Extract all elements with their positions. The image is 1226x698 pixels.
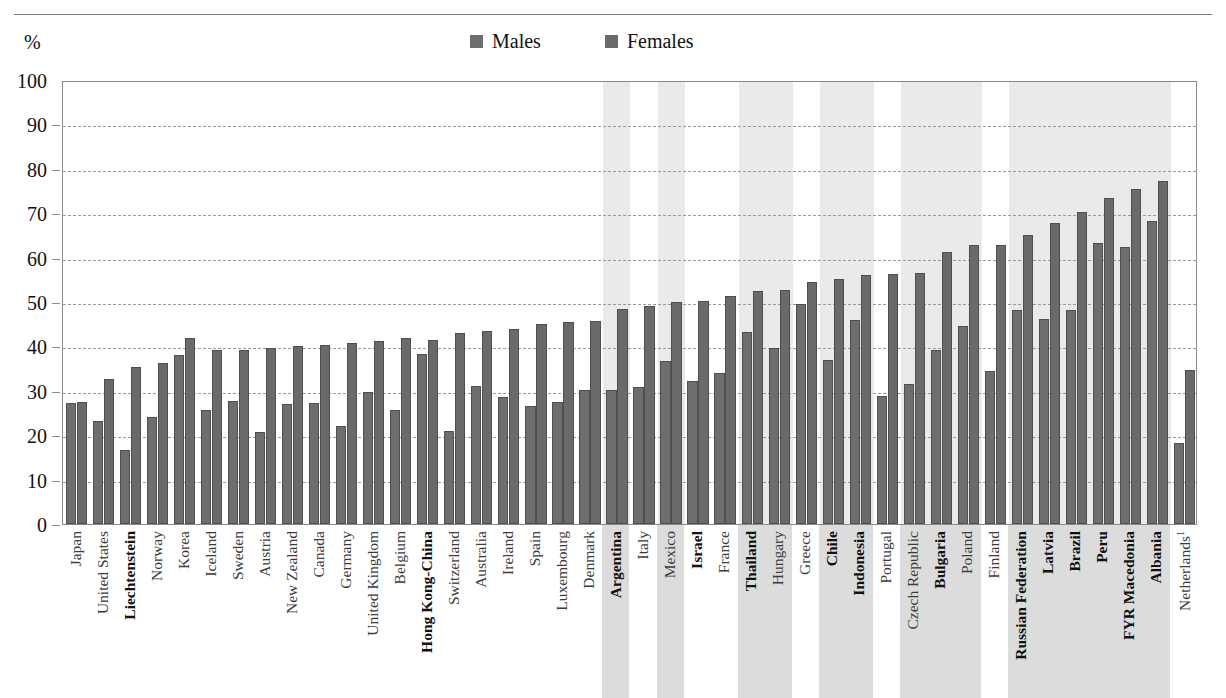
bar-males-portugal [877, 396, 887, 524]
x-axis-label-cell: Iceland [197, 525, 224, 698]
bar-females-brazil [1077, 212, 1087, 524]
bar-males-chile [823, 360, 833, 524]
bar-females-mexico [671, 302, 681, 524]
x-axis-label-cell: Latvia [1035, 525, 1062, 698]
bar-females-united-states [104, 379, 114, 524]
x-axis-tick-label: Finland [987, 531, 1003, 578]
x-axis-tick-label: Thailand [743, 531, 759, 591]
bar-females-united-kingdom [374, 341, 384, 524]
x-axis-tick-label: FYR Macedonia [1122, 531, 1138, 640]
figure-root: % MalesFemales 1009080706050403020100 Ja… [0, 0, 1226, 698]
bar-males-russian-federation [1012, 310, 1022, 524]
y-axis-tick-mark [52, 525, 60, 526]
bar-females-greece [807, 282, 817, 524]
bar-females-czech-republic [915, 273, 925, 524]
plot-area [62, 81, 1197, 525]
x-axis-tick-label: New Zealand [284, 531, 300, 614]
legend-label: Males [492, 31, 541, 51]
x-axis-label-cell: Brazil [1062, 525, 1089, 698]
x-axis-label-cell: Indonesia [846, 525, 873, 698]
x-axis-label-cell: Australia [467, 525, 494, 698]
bar-females-france [725, 296, 735, 524]
bar-females-austria [266, 348, 276, 524]
x-axis-label-cell: New Zealand [278, 525, 305, 698]
y-axis-tick-label: 50 [27, 293, 47, 313]
chart-legend: MalesFemales [470, 28, 694, 54]
x-axis-label-cell: Mexico [657, 525, 684, 698]
x-axis-tick-label: Norway [149, 531, 165, 581]
bar-males-iceland [201, 410, 211, 524]
bar-females-germany [347, 343, 357, 524]
x-axis-tick-label: Germany [338, 531, 354, 589]
y-axis-tick-mark [52, 392, 60, 393]
x-axis-tick-label: Luxembourg [554, 531, 570, 611]
x-axis-tick-label: Belgium [392, 531, 408, 584]
bar-males-fyr-macedonia [1120, 247, 1130, 524]
bar-males-luxembourg [552, 402, 562, 524]
x-axis-tick-label: Korea [176, 531, 192, 569]
y-axis-tick-label: 60 [27, 249, 47, 269]
x-axis-label-cell: United Kingdom [359, 525, 386, 698]
x-axis-label-cell: France [711, 525, 738, 698]
bar-males-france [714, 373, 724, 524]
x-axis-tick-label: Israel [689, 531, 705, 569]
bar-males-brazil [1066, 310, 1076, 524]
bar-females-australia [482, 331, 492, 524]
y-axis-tick-mark [52, 125, 60, 126]
y-axis-tick-mark [52, 303, 60, 304]
y-axis-tick-mark [52, 481, 60, 482]
y-axis-tick-label: 100 [17, 71, 47, 91]
bar-females-new-zealand [293, 346, 303, 524]
x-axis-tick-label: Australia [473, 531, 489, 588]
x-axis-tick-label: Austria [257, 531, 273, 577]
bar-males-netherlands [1174, 443, 1184, 524]
bar-males-germany [336, 426, 346, 524]
x-axis-label-cell: Spain [521, 525, 548, 698]
bar-females-latvia [1050, 223, 1060, 524]
y-axis-unit-label: % [24, 31, 41, 54]
x-axis-label-cell: Liechtenstein [116, 525, 143, 698]
bar-females-albania [1158, 181, 1168, 524]
x-axis-label-cell: United States [89, 525, 116, 698]
x-axis-label-cell: Belgium [386, 525, 413, 698]
x-axis-label-cell: Thailand [738, 525, 765, 698]
bar-females-russian-federation [1023, 235, 1033, 524]
x-axis-label-cell: Peru [1089, 525, 1116, 698]
bar-females-luxembourg [563, 322, 573, 524]
x-axis-label-cell: Bulgaria [927, 525, 954, 698]
bar-males-peru [1093, 243, 1103, 524]
bar-males-czech-republic [904, 384, 914, 524]
x-axis-label-cell: Ireland [494, 525, 521, 698]
x-axis-tick-label: Czech Republic [905, 531, 921, 630]
x-axis-label-cell: Switzerland [440, 525, 467, 698]
bar-females-norway [158, 363, 168, 524]
bar-females-liechtenstein [131, 367, 141, 524]
x-axis-labels: JapanUnited StatesLiechtensteinNorwayKor… [62, 525, 1197, 698]
y-axis-tick-mark [52, 170, 60, 171]
bar-males-israel [687, 381, 697, 524]
y-axis-tick-mark [52, 436, 60, 437]
x-axis-tick-label: Italy [635, 531, 651, 559]
bar-females-belgium [401, 338, 411, 524]
x-axis-tick-label: Brazil [1068, 531, 1084, 571]
x-axis-label-cell: Poland [954, 525, 981, 698]
bar-males-austria [255, 432, 265, 524]
legend-swatch-icon [605, 35, 618, 48]
x-axis-tick-label: Denmark [581, 531, 597, 589]
bar-males-indonesia [850, 320, 860, 524]
bar-females-peru [1104, 198, 1114, 524]
legend-swatch-icon [470, 35, 483, 48]
x-axis-tick-label: Hungary [770, 531, 786, 585]
x-axis-label-cell: Canada [305, 525, 332, 698]
bar-males-sweden [228, 401, 238, 524]
x-axis-label-cell: Chile [819, 525, 846, 698]
bar-males-finland [985, 371, 995, 524]
bar-males-belgium [390, 410, 400, 524]
bar-males-spain [525, 406, 535, 524]
x-axis-tick-label: Switzerland [446, 531, 462, 605]
x-axis-label-cell: Sweden [224, 525, 251, 698]
x-axis-tick-label: Ireland [500, 531, 516, 575]
x-axis-label-cell: Norway [143, 525, 170, 698]
x-axis-label-cell: FYR Macedonia [1116, 525, 1143, 698]
legend-item-males: Males [470, 31, 541, 51]
